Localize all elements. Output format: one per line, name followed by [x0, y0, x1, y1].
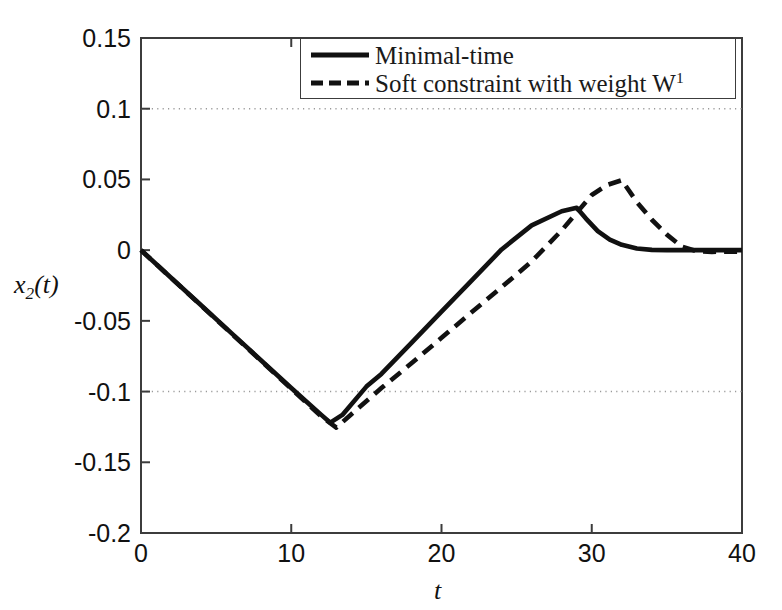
series-line-minimal-time — [141, 208, 742, 423]
x-axis-tick-label: 40 — [728, 541, 756, 566]
legend-entry-minimal-time: Minimal-time — [301, 40, 514, 70]
y-axis-tick-label: -0.1 — [0, 379, 131, 404]
data-series-group — [141, 180, 742, 428]
legend-sample-dashed-line — [309, 73, 371, 93]
legend-label-minimal-time: Minimal-time — [375, 43, 514, 68]
y-axis-title-tail: (t) — [34, 270, 59, 299]
figure-container: 0.150.10.050-0.05-0.1-0.15-0.2 010203040… — [0, 0, 782, 610]
x-axis-tick-label: 30 — [578, 541, 606, 566]
y-axis-tick-label: 0.05 — [0, 167, 131, 192]
x-axis-tick-label: 10 — [277, 541, 305, 566]
axis-ticks — [141, 38, 742, 533]
y-axis-tick-label: 0 — [0, 238, 131, 263]
y-axis-tick-label: -0.05 — [0, 308, 131, 333]
legend-label-soft-constraint-text: Soft constraint with weight W — [375, 70, 676, 97]
legend-sample-solid-line — [309, 45, 371, 65]
series-line-soft-constraint — [141, 180, 742, 428]
legend-label-soft-constraint: Soft constraint with weight W1 — [375, 70, 684, 96]
y-axis-tick-label: 0.1 — [0, 96, 131, 121]
axes-frame — [141, 38, 742, 533]
legend: Minimal-time Soft constraint with weight… — [300, 38, 736, 99]
x-axis-title-text: t — [434, 576, 441, 605]
x-axis-tick-label: 0 — [134, 541, 148, 566]
legend-label-soft-constraint-superscript: 1 — [676, 69, 684, 86]
x-axis-tick-label: 20 — [428, 541, 456, 566]
y-axis-tick-label: 0.15 — [0, 26, 131, 51]
y-axis-title-base: x — [14, 270, 26, 299]
y-axis-title: x2(t) — [14, 272, 59, 302]
y-axis-tick-label: -0.15 — [0, 450, 131, 475]
y-axis-title-subscript: 2 — [26, 284, 35, 303]
y-axis-tick-label: -0.2 — [0, 521, 131, 546]
x-axis-title: t — [434, 578, 441, 604]
legend-entry-soft-constraint: Soft constraint with weight W1 — [301, 68, 684, 98]
